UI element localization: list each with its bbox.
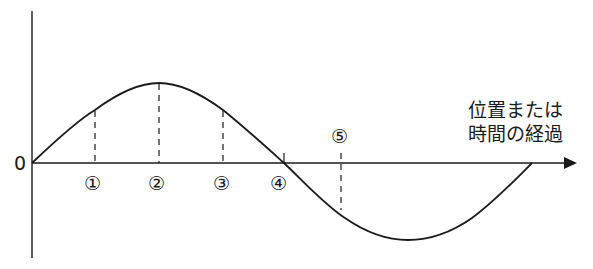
marker-2-label: ② xyxy=(148,174,165,193)
origin-label: 0 xyxy=(14,154,26,173)
x-axis-title-line-2: 時間の経過 xyxy=(468,122,563,146)
marker-4-label: ④ xyxy=(270,174,287,193)
marker-3-label: ③ xyxy=(213,174,230,193)
marker-1-label: ① xyxy=(84,174,101,193)
x-axis-title-line-1: 位置または xyxy=(468,98,563,122)
x-axis-arrow-icon xyxy=(564,157,577,169)
marker-5-label: ⑤ xyxy=(331,127,348,146)
x-axis-title: 位置または 時間の経過 xyxy=(468,98,563,146)
wave-curve xyxy=(32,83,532,240)
